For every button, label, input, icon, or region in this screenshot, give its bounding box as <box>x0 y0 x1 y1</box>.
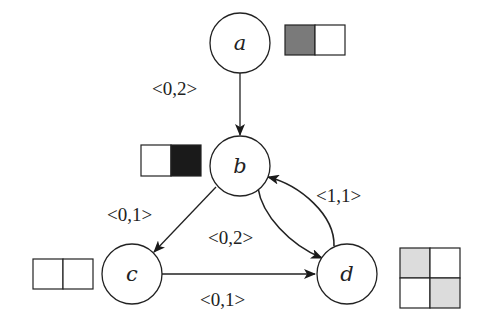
edge-label-d-b: <1,1> <box>316 185 361 206</box>
node-a: a <box>210 13 270 73</box>
node-b: b <box>210 136 270 196</box>
node-a-label: a <box>234 31 247 55</box>
state-box-a <box>285 25 345 55</box>
node-b-label: b <box>233 154 246 178</box>
edge-b-to-d <box>258 188 322 258</box>
state-box-b <box>141 145 201 176</box>
edge-label-c-d: <0,1> <box>200 289 245 310</box>
graph-diagram: <0,2> <0,1> <0,2> <1,1> <0,1> a b c d <box>0 0 483 336</box>
node-d-label: d <box>340 262 353 286</box>
edge-label-a-b: <0,2> <box>152 78 197 99</box>
node-c: c <box>102 244 162 304</box>
edge-label-b-c: <0,1> <box>107 204 152 225</box>
edge-label-b-d: <0,2> <box>208 227 253 248</box>
state-box-c <box>33 259 93 289</box>
edge-b-to-c <box>154 187 216 252</box>
node-c-label: c <box>126 262 138 286</box>
node-d: d <box>317 244 377 304</box>
state-box-d <box>400 248 460 308</box>
